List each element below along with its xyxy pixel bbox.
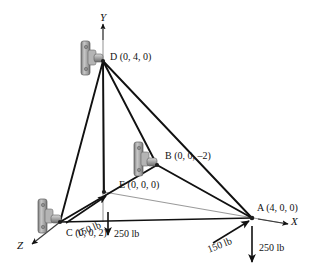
point-label-B: B (0, 0, –2) bbox=[165, 151, 211, 161]
point-label-D: D (0, 4, 0) bbox=[110, 52, 151, 62]
force-label-c-250: 250 lb bbox=[114, 229, 139, 239]
member-d-a bbox=[103, 61, 252, 218]
member-b-a bbox=[157, 165, 252, 218]
axis-label-z: Z bbox=[17, 240, 23, 251]
axis-label-x: X bbox=[291, 216, 298, 227]
axis-label-y: Y bbox=[100, 12, 106, 23]
point-label-E: E (0, 0, 0) bbox=[119, 180, 159, 190]
statics-diagram bbox=[0, 0, 328, 279]
force-label-a-250: 250 lb bbox=[259, 243, 284, 253]
member-d-c bbox=[60, 61, 103, 222]
node-a bbox=[250, 216, 255, 221]
member-d-b bbox=[103, 61, 157, 165]
cable-network bbox=[60, 61, 252, 222]
bracket-c bbox=[38, 199, 62, 233]
force-arrow-c-150 bbox=[66, 196, 106, 223]
member-d-e bbox=[103, 61, 104, 192]
point-label-A: A (4, 0, 0) bbox=[257, 203, 298, 213]
node-e bbox=[102, 190, 106, 194]
